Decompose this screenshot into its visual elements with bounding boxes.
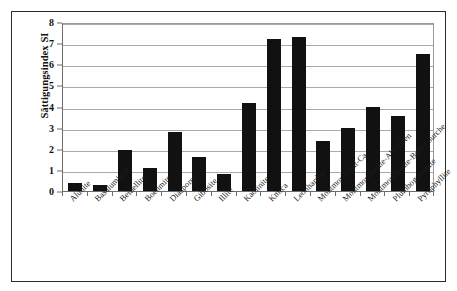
x-tick-mark: [186, 192, 187, 196]
y-tick-label: 3: [49, 124, 54, 134]
x-axis-labels: AluniteBasaluminiteBeidelliteBoehmiteDia…: [62, 197, 434, 287]
x-tick-mark: [112, 192, 113, 196]
y-tick-label: 7: [49, 39, 54, 49]
y-tick-label: 5: [49, 81, 54, 91]
y-tick-label: 0: [49, 187, 54, 197]
bar: [242, 103, 256, 191]
x-tick-mark: [433, 192, 434, 196]
x-tick-mark: [236, 192, 237, 196]
x-tick-mark: [62, 192, 63, 196]
x-tick-mark: [384, 192, 385, 196]
y-tick-label: 1: [49, 166, 54, 176]
y-tick-label: 4: [49, 103, 54, 113]
y-axis-ticks: 012345678: [12, 23, 62, 192]
x-tick-mark: [260, 192, 261, 196]
x-tick-mark: [360, 192, 361, 196]
x-tick-mark: [335, 192, 336, 196]
x-tick-mark: [136, 192, 137, 196]
y-tick-label: 8: [49, 18, 54, 28]
x-tick-mark: [409, 192, 410, 196]
y-tick-label: 2: [49, 145, 54, 155]
bar: [292, 37, 306, 191]
y-tick-label: 6: [49, 60, 54, 70]
x-tick-mark: [211, 192, 212, 196]
figure-frame: Sättigungsindex SI 012345678 AluniteBasa…: [11, 11, 446, 282]
x-tick-mark: [310, 192, 311, 196]
x-tick-mark: [285, 192, 286, 196]
x-tick-mark: [161, 192, 162, 196]
bar: [267, 39, 281, 191]
x-tick-mark: [87, 192, 88, 196]
